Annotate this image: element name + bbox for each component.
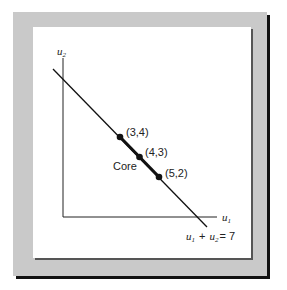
point-4-3 xyxy=(136,154,143,161)
point-label-5-2: (5,2) xyxy=(165,167,188,179)
point-label-3-4: (3,4) xyxy=(126,126,149,138)
core-diagram: u2 u1 (3,4) (4,3) (5,2) Core u1+u2= 7 xyxy=(0,0,287,290)
y-axis-label: u2 xyxy=(57,45,67,59)
point-5-2 xyxy=(156,174,163,181)
core-label: Core xyxy=(113,160,137,172)
point-3-4 xyxy=(117,134,124,141)
x-axis-label: u1 xyxy=(222,211,231,225)
equation-label: u1+u2= 7 xyxy=(186,230,235,244)
point-label-4-3: (4,3) xyxy=(145,146,168,158)
